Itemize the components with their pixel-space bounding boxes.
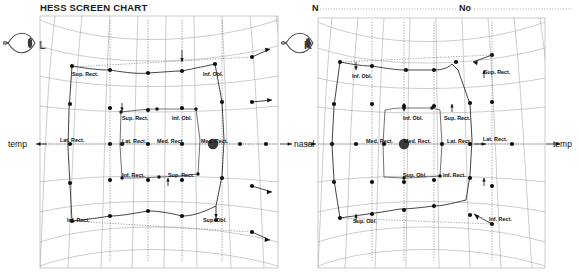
label-sup-obl-outer: Sup. Obl. (203, 217, 227, 223)
right-eye-chart: N No R (282, 3, 573, 268)
label-inf-rect-inner: Inf. Rect. (122, 172, 145, 178)
right-guide-lines (318, 22, 545, 262)
label-med-rect-inner: Med. Rect. (157, 138, 184, 144)
right-muscle-labels: Inf. Obl. Sup. Rect. Inf. Obl. Sup. Rect… (352, 69, 512, 224)
label-sup-rect-outer: Sup. Rect. (72, 71, 99, 77)
label-sup-obl-outer: Sup. Obl. (353, 218, 377, 224)
center-nasal-axis: nasal (280, 139, 316, 149)
label-inf-obl-inner: Inf. Obl. (172, 115, 193, 121)
label-lat-rect-outer: Lat. Rect. (483, 136, 508, 142)
label-med-rect-outer: Med. Rect. (201, 138, 228, 144)
label-inf-rect-outer: Inf. Rect. (489, 216, 512, 222)
label-sup-obl-inner: Sup. Obl. (403, 172, 427, 178)
eye-icon (4, 33, 36, 53)
label-inf-obl-outer: Inf. Obl. (352, 73, 373, 79)
label-inf-rect-inner: Inf. Rect. (443, 172, 466, 178)
left-eye-chart: L (4, 16, 297, 268)
label-inf-obl-inner: Inf. Obl. (403, 115, 424, 121)
chart-canvas: HESS SCREEN CHART L (0, 0, 579, 279)
label-med-rect-outer: Med. Rect. (366, 138, 393, 144)
label-sup-rect-inner: Sup. Rect. (122, 115, 149, 121)
right-axis-temp-label: temp (553, 139, 572, 149)
label-lat-rect-inner: Lat. Rect. (447, 138, 472, 144)
label-lat-rect-outer: Lat. Rect. (60, 137, 85, 143)
label-sup-rect-inner-bottom: Sup. Rect. (168, 172, 195, 178)
label-inf-rect-outer: Inf. Rect. (67, 217, 90, 223)
label-med-rect-inner: Med. Rect. (404, 138, 431, 144)
left-axis-temp-label: temp (8, 139, 27, 149)
label-inf-obl-outer: Inf. Obl. (203, 71, 224, 77)
left-muscle-labels: Sup. Rect. Inf. Obl. Lat. Rect. Inf. Rec… (60, 71, 228, 223)
label-sup-rect-outer: Sup. Rect. (484, 69, 511, 75)
nasal-header-n: N (312, 3, 319, 13)
nasal-header-no: No (459, 3, 471, 13)
label-lat-rect-inner: Lat. Rect. (122, 138, 147, 144)
page-title: HESS SCREEN CHART (40, 2, 147, 13)
label-sup-rect-inner: Sup. Rect. (444, 115, 471, 121)
hess-screen-chart-page: HESS SCREEN CHART L (0, 0, 579, 279)
right-eye-label: R (304, 39, 312, 51)
